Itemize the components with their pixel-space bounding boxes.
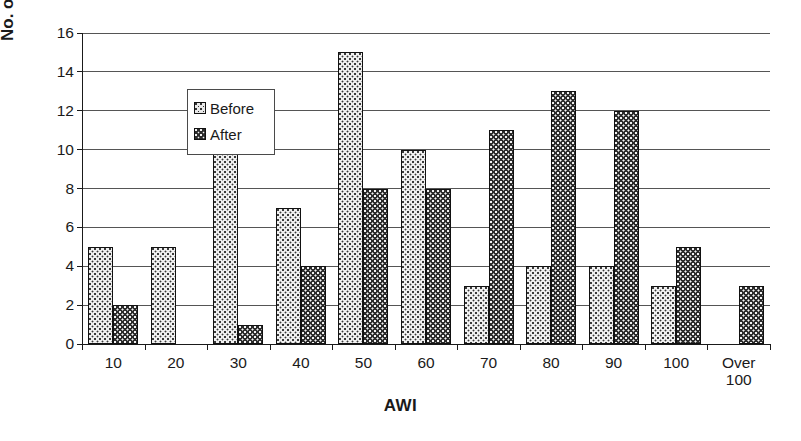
y-tick-mark-6 <box>77 227 82 228</box>
y-tick-mark-14 <box>77 71 82 72</box>
bar-after <box>489 130 514 344</box>
chart-legend: Before After <box>187 89 275 155</box>
bar-group <box>82 33 145 344</box>
y-tick-label-6: 6 <box>40 220 74 236</box>
legend-item-after: After <box>194 121 270 147</box>
x-tick-mark <box>645 344 646 350</box>
x-tick-label-line: 100 <box>641 354 711 371</box>
legend-swatch-before-icon <box>194 102 206 114</box>
bar-before <box>88 247 113 344</box>
x-tick-label-line: 90 <box>579 354 649 371</box>
x-tick-label-line: 40 <box>266 354 336 371</box>
x-tick-mark <box>82 344 83 350</box>
y-tick-label-16: 16 <box>40 25 74 41</box>
bar-group <box>707 33 770 344</box>
bar-group <box>645 33 708 344</box>
x-tick-mark <box>582 344 583 350</box>
x-axis-title: AWI <box>0 396 801 416</box>
bar-group <box>457 33 520 344</box>
bar-after <box>301 266 326 344</box>
x-tick-label-line: Over <box>704 354 774 371</box>
bar-group <box>520 33 583 344</box>
x-tick-label: 70 <box>454 354 524 371</box>
y-tick-label-4: 4 <box>40 259 74 275</box>
y-tick-mark-16 <box>77 33 82 34</box>
chart-figure: No. of properties 0246810121416 Before A… <box>0 0 801 441</box>
legend-label-before: Before <box>210 101 254 116</box>
y-tick-mark-4 <box>77 266 82 267</box>
x-tick-mark <box>707 344 708 350</box>
x-tick-mark <box>770 344 771 350</box>
bar-after <box>363 189 388 345</box>
bar-before <box>651 286 676 344</box>
x-tick-label: Over100 <box>704 354 774 389</box>
legend-item-before: Before <box>194 95 270 121</box>
x-tick-label-line: 50 <box>328 354 398 371</box>
y-tick-label-8: 8 <box>40 181 74 197</box>
y-tick-label-10: 10 <box>40 142 74 158</box>
x-tick-mark <box>520 344 521 350</box>
x-tick-label: 20 <box>141 354 211 371</box>
x-tick-label: 50 <box>328 354 398 371</box>
bar-group <box>145 33 208 344</box>
bar-before <box>589 266 614 344</box>
y-tick-label-12: 12 <box>40 103 74 119</box>
x-tick-label: 30 <box>203 354 273 371</box>
bar-group <box>395 33 458 344</box>
legend-swatch-after-icon <box>194 128 206 140</box>
x-tick-label-line: 80 <box>516 354 586 371</box>
bar-group <box>270 33 333 344</box>
bar-before <box>213 130 238 344</box>
bar-after <box>614 111 639 344</box>
bar-before <box>401 150 426 344</box>
bar-group <box>332 33 395 344</box>
bar-after <box>676 247 701 344</box>
x-tick-label: 80 <box>516 354 586 371</box>
y-axis-title: No. of properties <box>0 0 18 88</box>
x-tick-label: 90 <box>579 354 649 371</box>
x-tick-label-line: 20 <box>141 354 211 371</box>
x-tick-mark <box>332 344 333 350</box>
x-tick-label: 100 <box>641 354 711 371</box>
x-tick-label-line: 10 <box>78 354 148 371</box>
y-tick-mark-10 <box>77 149 82 150</box>
bar-before <box>338 52 363 344</box>
bar-after <box>739 286 764 344</box>
x-tick-label-line: 70 <box>454 354 524 371</box>
x-tick-label: 10 <box>78 354 148 371</box>
plot-area: Before After <box>82 33 770 344</box>
bar-group <box>582 33 645 344</box>
x-tick-mark <box>207 344 208 350</box>
bar-before <box>276 208 301 344</box>
x-tick-mark <box>395 344 396 350</box>
x-tick-label: 40 <box>266 354 336 371</box>
y-tick-mark-2 <box>77 305 82 306</box>
y-axis-title-text: No. of properties <box>0 0 18 88</box>
bar-before <box>526 266 551 344</box>
x-axis: 102030405060708090100Over100 <box>82 344 770 404</box>
y-tick-label-14: 14 <box>40 64 74 80</box>
x-tick-label: 60 <box>391 354 461 371</box>
bar-group <box>207 33 270 344</box>
bar-after <box>426 189 451 345</box>
x-tick-mark <box>457 344 458 350</box>
x-tick-label-line: 30 <box>203 354 273 371</box>
y-tick-label-2: 2 <box>40 297 74 313</box>
y-tick-label-0: 0 <box>40 336 74 352</box>
x-tick-mark <box>145 344 146 350</box>
bar-after <box>113 305 138 344</box>
legend-label-after: After <box>210 127 242 142</box>
bar-before <box>464 286 489 344</box>
y-tick-mark-12 <box>77 110 82 111</box>
x-tick-label-line: 60 <box>391 354 461 371</box>
bar-before <box>151 247 176 344</box>
plot-frame <box>82 33 770 344</box>
y-tick-mark-8 <box>77 188 82 189</box>
bar-after <box>551 91 576 344</box>
x-tick-label-line: 100 <box>704 371 774 388</box>
bar-after <box>238 325 263 344</box>
x-tick-mark <box>270 344 271 350</box>
